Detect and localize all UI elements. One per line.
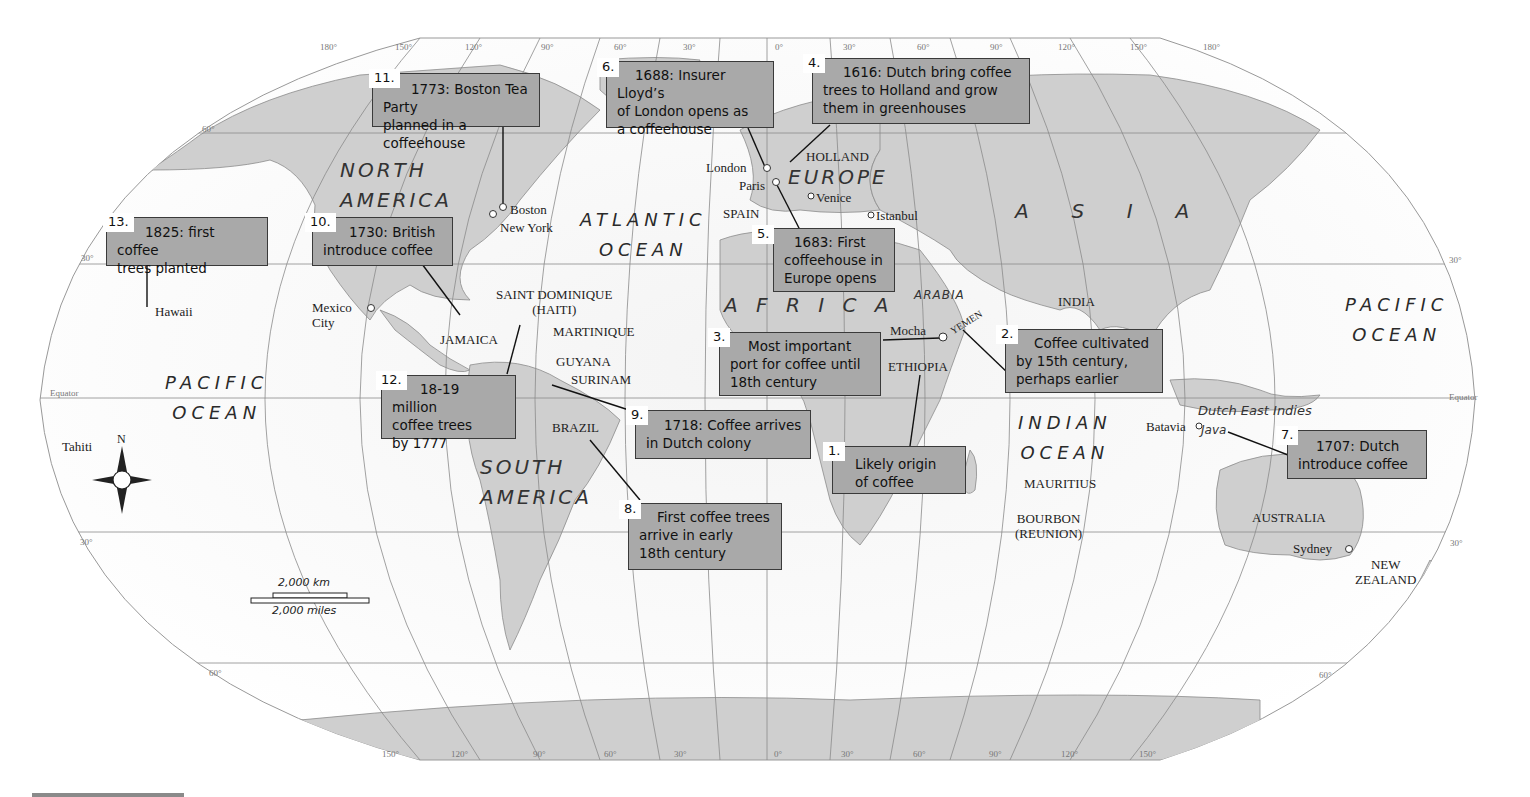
place-venice: Venice <box>816 190 851 205</box>
place-sydney: Sydney <box>1293 541 1332 556</box>
lon-label: 120° <box>1061 749 1078 759</box>
page-edge-bar <box>32 793 184 797</box>
lon-label: 150° <box>395 42 412 52</box>
callout-5: 5. 1683: First coffeehouse in Europe ope… <box>773 228 895 292</box>
lon-label: 90° <box>533 749 546 759</box>
continent-asia: A S I A <box>1015 200 1199 222</box>
callout-10: 10. 1730: British introduce coffee <box>312 217 453 266</box>
callout-13: 13. 1825: first coffee trees planted <box>106 217 268 266</box>
callout-text: 1825: first coffee trees planted <box>117 223 259 277</box>
place-saint-dominique: SAINT DOMINIQUE (HAITI) <box>496 287 612 317</box>
boston-dot <box>500 204 507 211</box>
callout-text: 1718: Coffee arrives in Dutch colony <box>646 416 802 452</box>
callout-number: 3. <box>708 328 730 347</box>
lon-label: 90° <box>990 42 1003 52</box>
place-tahiti: Tahiti <box>62 439 92 454</box>
place-guyana: GUYANA <box>556 354 611 369</box>
callout-number: 4. <box>803 54 825 73</box>
lon-label: 60° <box>917 42 930 52</box>
sydney-dot <box>1346 546 1353 553</box>
paris-dot <box>773 179 780 186</box>
callout-number: 2. <box>996 325 1018 344</box>
continent-africa: A F R I C A <box>724 294 894 316</box>
lon-label: 90° <box>989 749 1002 759</box>
place-spain: SPAIN <box>723 206 759 221</box>
ocean-pacific-west: PACIFIC OCEAN <box>165 368 268 428</box>
place-new-zealand: NEW ZEALAND <box>1355 557 1416 587</box>
lon-label: 120° <box>451 749 468 759</box>
callout-number: 11. <box>369 69 400 88</box>
callout-6: 6. 1688: Insurer Lloyd’s of London opens… <box>606 61 774 128</box>
callout-text: 1730: British introduce coffee <box>323 223 444 259</box>
callout-text: 1707: Dutch introduce coffee <box>1298 437 1418 473</box>
callout-text: 1688: Insurer Lloyd’s of London opens as… <box>617 66 765 138</box>
lon-label: 0° <box>774 749 782 759</box>
lon-label: 150° <box>382 749 399 759</box>
place-brazil: BRAZIL <box>552 420 599 435</box>
place-surinam: SURINAM <box>571 372 631 387</box>
callout-text: Most important port for coffee until 18t… <box>730 337 872 391</box>
equator-label: Equator <box>50 388 79 398</box>
lon-label: 60° <box>913 749 926 759</box>
ocean-pacific-east: PACIFIC OCEAN <box>1345 290 1448 350</box>
istanbul-dot <box>868 212 874 218</box>
place-martinique: MARTINIQUE <box>553 324 635 339</box>
place-batavia: Batavia <box>1146 419 1186 434</box>
mexico-city-dot <box>368 305 375 312</box>
new-york-dot <box>490 211 497 218</box>
lat-label: 30° <box>1449 255 1462 265</box>
callout-12: 12. 18-19 million coffee trees by 1777 <box>381 375 516 439</box>
mocha-dot <box>939 333 947 341</box>
callout-text: Coffee cultivated by 15th century, perha… <box>1016 334 1154 388</box>
lat-label: 30° <box>80 537 93 547</box>
place-india: INDIA <box>1058 294 1095 309</box>
london-dot <box>764 165 771 172</box>
callout-3: 3. Most important port for coffee until … <box>719 332 881 396</box>
lon-label: 30° <box>843 42 856 52</box>
continent-north-america: NORTH AMERICA <box>340 155 452 215</box>
callout-1: 1. Likely origin of coffee <box>832 446 966 494</box>
callout-8: 8. First coffee trees arrive in early 18… <box>628 503 782 570</box>
continent-south-america: SOUTH AMERICA <box>480 452 592 512</box>
callout-text: Likely origin of coffee <box>843 455 957 491</box>
place-ethiopia: ETHIOPIA <box>888 359 948 374</box>
callout-text: 1773: Boston Tea Party planned in a coff… <box>383 80 531 152</box>
lon-label: 60° <box>614 42 627 52</box>
callout-number: 1. <box>823 442 845 461</box>
lon-label: 30° <box>841 749 854 759</box>
place-london: London <box>706 160 746 175</box>
callout-number: 6. <box>597 58 619 77</box>
lat-label: 60° <box>1319 670 1332 680</box>
place-new-york: New York <box>500 220 553 235</box>
lat-label: 30° <box>81 253 94 263</box>
venice-dot <box>808 193 814 199</box>
callout-number: 9. <box>626 406 648 425</box>
lon-label: 120° <box>465 42 482 52</box>
lon-label: 30° <box>674 749 687 759</box>
ocean-atlantic: ATLANTIC OCEAN <box>580 205 707 265</box>
callout-2: 2. Coffee cultivated by 15th century, pe… <box>1005 329 1163 393</box>
place-holland: HOLLAND <box>806 149 869 164</box>
continent-europe: EUROPE <box>788 166 888 188</box>
callout-text: 18-19 million coffee trees by 1777 <box>392 380 507 452</box>
lat-label: 30° <box>1450 538 1463 548</box>
lon-label: 120° <box>1058 42 1075 52</box>
lon-label: 0° <box>775 42 783 52</box>
callout-number: 8. <box>619 500 641 519</box>
place-boston: Boston <box>510 202 547 217</box>
callout-number: 10. <box>305 213 336 232</box>
place-hawaii: Hawaii <box>155 304 193 319</box>
place-paris: Paris <box>739 178 765 193</box>
callout-text: First coffee trees arrive in early 18th … <box>639 508 773 562</box>
lon-label: 180° <box>1203 42 1220 52</box>
lon-label: 60° <box>604 749 617 759</box>
equator-label: Equator <box>1449 392 1478 402</box>
place-australia: AUSTRALIA <box>1252 510 1326 525</box>
callout-9: 9. 1718: Coffee arrives in Dutch colony <box>635 410 811 459</box>
lat-label: 60° <box>209 668 222 678</box>
lon-label: 150° <box>1130 42 1147 52</box>
lon-label: 180° <box>320 42 337 52</box>
lat-label: 60° <box>202 124 215 134</box>
ocean-indian: INDIAN OCEAN <box>1018 408 1112 468</box>
place-jamaica: JAMAICA <box>440 332 498 347</box>
